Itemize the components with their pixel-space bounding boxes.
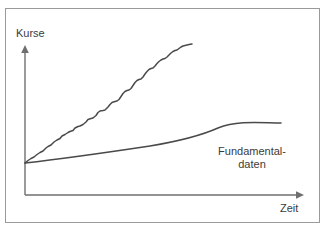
x-axis-arrow-icon <box>296 191 304 199</box>
figure-root: Kurse Zeit Fundamental- daten <box>0 0 328 232</box>
y-axis-label: Kurse <box>16 27 45 39</box>
line-chart: Kurse Zeit Fundamental- daten <box>0 0 328 232</box>
series-line-kurse <box>25 44 192 163</box>
annotation-fundamentaldaten-line2: daten <box>238 158 266 170</box>
annotation-fundamentaldaten-line1: Fundamental- <box>218 145 286 157</box>
x-axis-label: Zeit <box>280 202 298 214</box>
y-axis-arrow-icon <box>21 45 29 53</box>
